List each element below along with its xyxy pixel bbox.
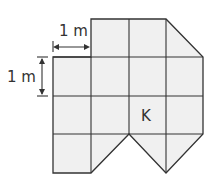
- area-diagram: 1 m 1 m K: [0, 0, 209, 184]
- vertical-dimension-label: 1 m: [7, 68, 36, 86]
- cell-marker-k: K: [141, 107, 152, 125]
- horizontal-dimension-arrow: [53, 41, 90, 52]
- horizontal-dimension-label: 1 m: [59, 22, 88, 40]
- vertical-dimension-arrow: [37, 57, 48, 96]
